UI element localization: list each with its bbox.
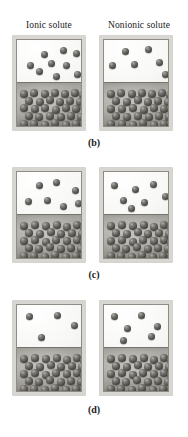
liquid-particle xyxy=(46,243,54,251)
liquid-particle xyxy=(155,112,163,120)
liquid-particle xyxy=(51,384,59,392)
liquid-particle xyxy=(72,120,80,127)
beaker-b-nonionic xyxy=(100,36,172,130)
liquid-particle xyxy=(133,376,141,384)
vapor-particle xyxy=(72,187,79,194)
vapor-particle xyxy=(109,62,116,69)
vapor-particle xyxy=(122,48,129,55)
beaker-c-nonionic xyxy=(100,168,172,262)
liquid-particle xyxy=(25,229,33,237)
beaker-d-ionic xyxy=(13,301,85,395)
liquid-particle xyxy=(30,89,38,97)
liquid-particle xyxy=(107,385,115,392)
liquid-particle xyxy=(118,236,126,244)
vapor-particle xyxy=(63,62,70,69)
liquid-particle xyxy=(52,369,60,377)
liquid-particle xyxy=(150,104,158,112)
liquid-particle xyxy=(80,119,82,127)
vapor-particle xyxy=(73,50,80,57)
liquid-particle xyxy=(62,253,70,259)
vapor-particle xyxy=(27,62,34,69)
vapor-region xyxy=(104,172,168,215)
liquid-particle xyxy=(167,384,169,392)
liquid-particle xyxy=(30,252,38,259)
vapor-particle xyxy=(150,181,157,188)
beaker-interior xyxy=(103,39,169,127)
liquid-particle xyxy=(20,120,28,127)
vapor-particle xyxy=(60,203,67,210)
liquid-particle xyxy=(72,105,80,113)
liquid-particle xyxy=(118,354,126,362)
liquid-particle xyxy=(139,119,147,127)
liquid-particle xyxy=(30,120,38,127)
vapor-particle xyxy=(36,182,43,189)
liquid-particle xyxy=(31,369,39,377)
liquid-particle xyxy=(128,253,136,259)
beaker-interior xyxy=(16,39,82,127)
panel-caption-d: (d) xyxy=(0,404,188,415)
vapor-particle xyxy=(148,333,155,340)
vapor-particle xyxy=(131,61,138,68)
liquid-particle xyxy=(52,236,60,244)
vapor-particle xyxy=(145,46,152,53)
liquid-particle xyxy=(51,119,59,127)
vapor-region xyxy=(17,172,81,215)
liquid-particle xyxy=(80,103,82,111)
vapor-particle xyxy=(53,179,60,186)
beaker-b-ionic xyxy=(13,36,85,130)
vapor-particle xyxy=(74,71,81,78)
liquid-particle xyxy=(20,252,28,259)
vapor-particle xyxy=(44,197,51,204)
liquid-particle xyxy=(159,385,167,392)
liquid-particle xyxy=(122,378,130,386)
vapor-particle xyxy=(75,200,82,207)
vapor-particle xyxy=(138,312,145,319)
vapor-particle xyxy=(154,323,161,330)
vapor-particle xyxy=(60,47,67,54)
vapor-particle xyxy=(25,198,32,205)
vapor-particle xyxy=(41,51,48,58)
liquid-particle xyxy=(30,385,38,392)
column-header-nonionic-solute: Nonionic solute xyxy=(94,20,184,30)
liquid-particle xyxy=(167,119,169,127)
vapor-particle xyxy=(26,313,33,320)
liquid-particle xyxy=(123,113,131,121)
panel-d xyxy=(0,301,188,419)
panel-b xyxy=(0,36,188,152)
liquid-particle xyxy=(118,221,126,229)
liquid-particle xyxy=(47,361,55,369)
liquid-particle xyxy=(134,96,142,104)
liquid-particle xyxy=(107,120,115,127)
liquid-particle xyxy=(134,361,142,369)
vapor-particle xyxy=(156,59,163,66)
liquid-particle xyxy=(72,385,80,392)
liquid-particle xyxy=(118,369,126,377)
liquid-particle xyxy=(112,244,120,252)
beaker-d-nonionic xyxy=(100,301,172,395)
vapor-particle xyxy=(162,193,169,200)
liquid-particle xyxy=(41,121,49,127)
liquid-particle xyxy=(41,386,49,392)
liquid-particle xyxy=(31,105,39,113)
liquid-particle xyxy=(167,104,169,112)
liquid-particle xyxy=(31,221,39,229)
panel-c xyxy=(0,168,188,284)
liquid-particle xyxy=(71,89,79,97)
vapor-particle xyxy=(111,313,118,320)
liquid-particle xyxy=(118,105,126,113)
liquid-particle xyxy=(112,112,120,120)
liquid-particle xyxy=(35,113,43,121)
liquid-particle xyxy=(140,221,148,229)
liquid-particle xyxy=(148,90,156,98)
liquid-particle xyxy=(107,252,115,259)
liquid-particle xyxy=(117,385,125,392)
liquid-particle xyxy=(159,252,167,259)
liquid-particle xyxy=(118,120,126,127)
liquid-particle xyxy=(35,245,43,253)
liquid-particle xyxy=(25,377,33,385)
vapor-particle xyxy=(54,312,61,319)
vapor-particle xyxy=(120,197,127,204)
liquid-particle xyxy=(46,376,54,384)
liquid-particle xyxy=(62,121,70,127)
liquid-particle xyxy=(20,104,28,112)
